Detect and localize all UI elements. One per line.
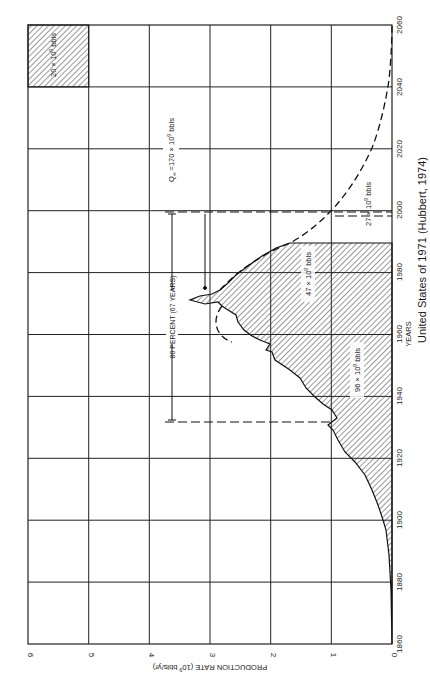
- y-tick-4: 4: [147, 653, 156, 658]
- x-tick-1940: 1940: [395, 387, 404, 405]
- y-tick-3: 3: [208, 653, 217, 658]
- svg-text:Q∞ =170 × 109 bbls: Q∞ =170 × 109 bbls: [166, 118, 177, 182]
- x-tick-1960: 1960: [395, 325, 404, 343]
- x-tick-1860: 1860: [395, 635, 404, 653]
- x-tick-1980: 1980: [395, 263, 404, 281]
- production-area: [190, 243, 392, 644]
- line-2000: [165, 212, 392, 216]
- svg-text:27 × 109 bbls: 27 × 109 bbls: [363, 182, 373, 226]
- production-ticks: 0 1 2 3 4 5 6: [26, 653, 399, 658]
- scale-box-label: 20 × 109 bbls: [48, 33, 58, 77]
- annotation-96: 96 × 109 bbls: [350, 342, 364, 398]
- y-tick-6: 6: [26, 653, 35, 658]
- annotation-47: 47 × 109 bbls: [301, 246, 315, 302]
- scale-box: [28, 25, 89, 87]
- x-tick-2000: 2000: [395, 201, 404, 219]
- annotation-27: 27 × 109 bbls: [363, 182, 373, 226]
- years-axis-label: YEARS: [404, 321, 413, 346]
- y-tick-5: 5: [87, 653, 96, 658]
- production-axis-label: PRODUCTION RATE (109 bbls/yr): [152, 663, 267, 673]
- x-tick-1880: 1880: [395, 573, 404, 591]
- svg-text:96 × 109 bbls: 96 × 109 bbls: [352, 348, 362, 392]
- year-ticks: 1860 1880 1900 1920 1940 1960 1980 2000 …: [395, 16, 404, 653]
- svg-text:80 PERCENT (67 YEARS): 80 PERCENT (67 YEARS): [169, 276, 177, 359]
- x-tick-2060: 2060: [395, 16, 404, 34]
- percent-annotation: 80 PERCENT (67 YEARS): [166, 276, 178, 359]
- hubbert-chart: 0 1 2 3 4 5 6 PRODUCTION RATE (109 bbls/…: [0, 0, 430, 681]
- x-tick-2020: 2020: [395, 140, 404, 158]
- x-tick-1900: 1900: [395, 511, 404, 529]
- y-tick-1: 1: [329, 653, 338, 658]
- y-tick-2: 2: [269, 653, 278, 658]
- figure-caption: United States of 1971 (Hubbert, 1974): [416, 157, 428, 343]
- svg-text:47 × 109 bbls: 47 × 109 bbls: [303, 252, 313, 296]
- x-tick-2040: 2040: [395, 78, 404, 96]
- x-tick-1920: 1920: [395, 449, 404, 467]
- chart-svg: 0 1 2 3 4 5 6 PRODUCTION RATE (109 bbls/…: [0, 0, 430, 681]
- qinf-annotation: Q∞ =170 × 109 bbls: [163, 112, 179, 192]
